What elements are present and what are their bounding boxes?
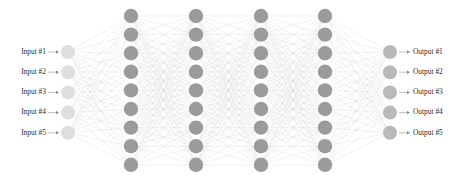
- neuron-node-hidden: [318, 158, 332, 172]
- connection-edge: [325, 72, 390, 165]
- connection-edge: [325, 133, 390, 146]
- connection-edge: [325, 52, 390, 53]
- neuron-node-hidden: [124, 27, 138, 41]
- neuron-node-output: [383, 126, 397, 140]
- neuron-node-hidden: [254, 120, 268, 134]
- neuron-node-hidden: [254, 65, 268, 79]
- input-arrow-icon-head: [56, 50, 59, 53]
- neuron-node-hidden: [124, 158, 138, 172]
- neuron-node-hidden: [189, 46, 203, 60]
- output-arrow-icon-head: [407, 71, 410, 74]
- input-label-5: Input #5: [21, 128, 46, 137]
- neural-network-diagram: Input #1Input #2Input #3Input #4Input #5…: [0, 0, 463, 184]
- output-label-4: Output #4: [413, 107, 443, 116]
- neuron-node-hidden: [189, 9, 203, 23]
- output-label-2: Output #2: [413, 67, 443, 76]
- neuron-node-hidden: [254, 158, 268, 172]
- neuron-node-hidden: [124, 139, 138, 153]
- neuron-node-output: [383, 106, 397, 120]
- connection-edge: [325, 16, 390, 113]
- connection-edge: [68, 113, 131, 165]
- neuron-node-hidden: [124, 46, 138, 60]
- neuron-node-hidden: [189, 83, 203, 97]
- network-canvas: Input #1Input #2Input #3Input #4Input #5…: [0, 0, 463, 184]
- connection-edge: [68, 109, 131, 113]
- neuron-node-input: [61, 45, 75, 59]
- neuron-node-hidden: [318, 120, 332, 134]
- output-label-1: Output #1: [413, 47, 443, 56]
- neuron-node-hidden: [189, 120, 203, 134]
- neuron-node-hidden: [318, 139, 332, 153]
- connection-edge: [325, 16, 390, 133]
- neuron-node-input: [61, 106, 75, 120]
- neuron-node-hidden: [254, 9, 268, 23]
- connection-edge: [68, 53, 131, 92]
- connection-edge: [325, 109, 390, 113]
- input-label-3: Input #3: [21, 87, 46, 96]
- neuron-node-hidden: [318, 65, 332, 79]
- connection-edge: [68, 35, 131, 73]
- connection-edge: [325, 16, 390, 52]
- neuron-node-hidden: [254, 102, 268, 116]
- connection-edge: [68, 92, 131, 127]
- connection-edge: [325, 92, 390, 127]
- neuron-node-hidden: [189, 27, 203, 41]
- neuron-node-output: [383, 85, 397, 99]
- connection-edge: [68, 35, 131, 113]
- neuron-node-hidden: [124, 9, 138, 23]
- neuron-node-hidden: [318, 102, 332, 116]
- connection-edge: [325, 52, 390, 90]
- neuron-node-hidden: [124, 65, 138, 79]
- connection-edge: [68, 16, 131, 113]
- connection-edge: [68, 52, 131, 90]
- neuron-node-hidden: [189, 102, 203, 116]
- neuron-node-hidden: [124, 120, 138, 134]
- connection-edge: [68, 16, 131, 72]
- neuron-node-hidden: [254, 46, 268, 60]
- neuron-node-hidden: [318, 83, 332, 97]
- neuron-node-hidden: [124, 83, 138, 97]
- output-arrow-icon-head: [407, 111, 410, 114]
- input-arrow-icon-head: [56, 91, 59, 94]
- output-label-5: Output #5: [413, 128, 443, 137]
- connection-edge: [325, 53, 390, 92]
- neuron-node-hidden: [189, 158, 203, 172]
- neuron-node-input: [61, 85, 75, 99]
- connection-edge: [325, 35, 390, 113]
- connection-edge: [68, 133, 131, 165]
- connection-edge: [325, 53, 390, 72]
- neuron-node-output: [383, 45, 397, 59]
- input-arrow-icon-head: [56, 71, 59, 74]
- connection-edge: [325, 133, 390, 165]
- output-arrow-icon-head: [407, 50, 410, 53]
- neuron-node-hidden: [254, 139, 268, 153]
- connection-edge: [325, 90, 390, 132]
- input-arrow-icon-head: [56, 131, 59, 134]
- connection-edge: [325, 113, 390, 165]
- output-arrow-icon-head: [407, 91, 410, 94]
- connection-edges: [68, 16, 390, 165]
- output-label-3: Output #3: [413, 87, 443, 96]
- input-arrow-icon-head: [56, 111, 59, 114]
- connection-edge: [68, 53, 131, 72]
- neuron-node-hidden: [124, 102, 138, 116]
- neuron-node-hidden: [254, 27, 268, 41]
- neuron-node-hidden: [318, 27, 332, 41]
- input-label-1: Input #1: [21, 47, 46, 56]
- connection-edge: [325, 92, 390, 164]
- neuron-node-input: [61, 65, 75, 79]
- neuron-node-input: [61, 126, 75, 140]
- input-label-4: Input #4: [21, 107, 46, 116]
- output-arrow-icon-head: [407, 131, 410, 134]
- connection-edge: [325, 16, 390, 72]
- input-label-2: Input #2: [21, 67, 46, 76]
- connection-edge: [68, 16, 131, 133]
- connection-edge: [325, 113, 390, 128]
- neuron-node-hidden: [189, 65, 203, 79]
- neuron-node-hidden: [318, 9, 332, 23]
- neuron-node-hidden: [189, 139, 203, 153]
- connection-edge: [68, 52, 131, 53]
- neuron-node-hidden: [318, 46, 332, 60]
- connection-edge: [68, 113, 131, 128]
- neuron-node-output: [383, 65, 397, 79]
